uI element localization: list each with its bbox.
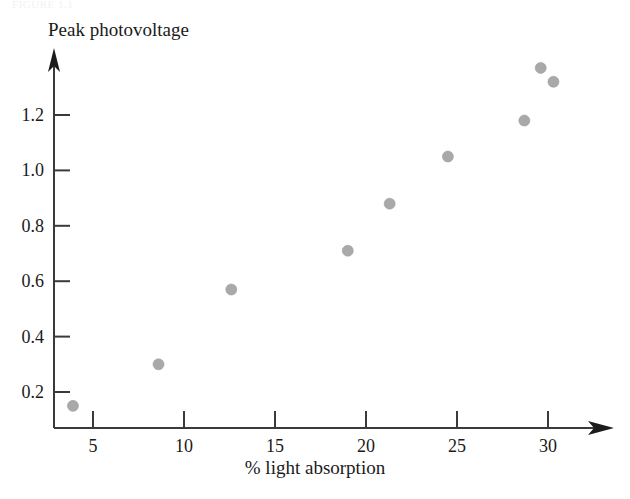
data-point <box>442 151 453 162</box>
x-tick-label: 20 <box>357 437 375 455</box>
data-point <box>342 245 353 256</box>
y-tick-label: 0.4 <box>22 328 45 346</box>
data-point <box>226 284 237 295</box>
axes-group <box>48 48 614 435</box>
x-tick-label: 5 <box>89 437 98 455</box>
data-points-group <box>67 62 558 411</box>
data-point <box>519 115 530 126</box>
x-axis-title: % light absorption <box>0 458 630 477</box>
x-tick-label: 10 <box>175 437 193 455</box>
y-tick-label: 1.0 <box>22 161 45 179</box>
data-point <box>535 62 546 73</box>
x-tick-label: 30 <box>539 437 557 455</box>
x-tick-label: 25 <box>448 437 466 455</box>
plot-canvas <box>0 0 630 499</box>
y-tick-label: 1.2 <box>22 106 45 124</box>
x-tick-label: 15 <box>266 437 284 455</box>
y-tick-label: 0.2 <box>22 383 45 401</box>
y-tick-label: 0.8 <box>22 217 45 235</box>
data-point <box>548 76 559 87</box>
y-tick-label: 0.6 <box>22 272 45 290</box>
data-point <box>384 198 395 209</box>
data-point <box>153 359 164 370</box>
scatter-plot-figure: FIGURE 1.1 Peak photovoltage 0.20.40.60.… <box>0 0 630 499</box>
data-point <box>67 400 78 411</box>
tick-marks-group <box>54 115 548 428</box>
